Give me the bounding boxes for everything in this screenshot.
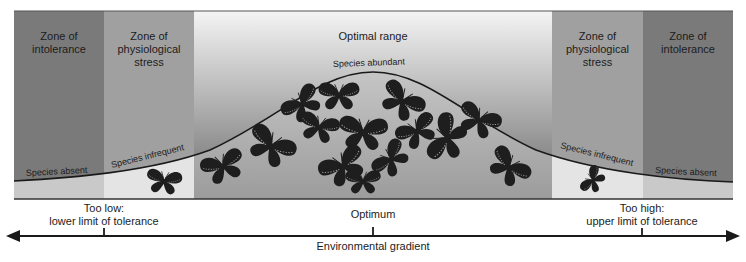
zone-intolerance-right-label: Zone ofintolerance (643, 30, 733, 56)
zone-intolerance-left-label: Zone ofintolerance (14, 30, 104, 56)
lower-limit-label: Too low:lower limit of tolerance (24, 202, 184, 228)
upper-limit-label: Too high:upper limit of tolerance (562, 202, 722, 228)
arrow-right-icon (726, 230, 740, 242)
tolerance-diagram: Species absent Species infrequent Specie… (0, 0, 746, 262)
zone-optimal-label: Optimal range (194, 30, 552, 43)
optimum-label: Optimum (313, 208, 433, 221)
axis-label: Environmental gradient (273, 240, 473, 253)
zone-stress-right-label: Zone ofphysiologicalstress (552, 30, 643, 69)
zone-stress-left-label: Zone ofphysiologicalstress (104, 30, 194, 69)
arrow-left-icon (6, 230, 20, 242)
